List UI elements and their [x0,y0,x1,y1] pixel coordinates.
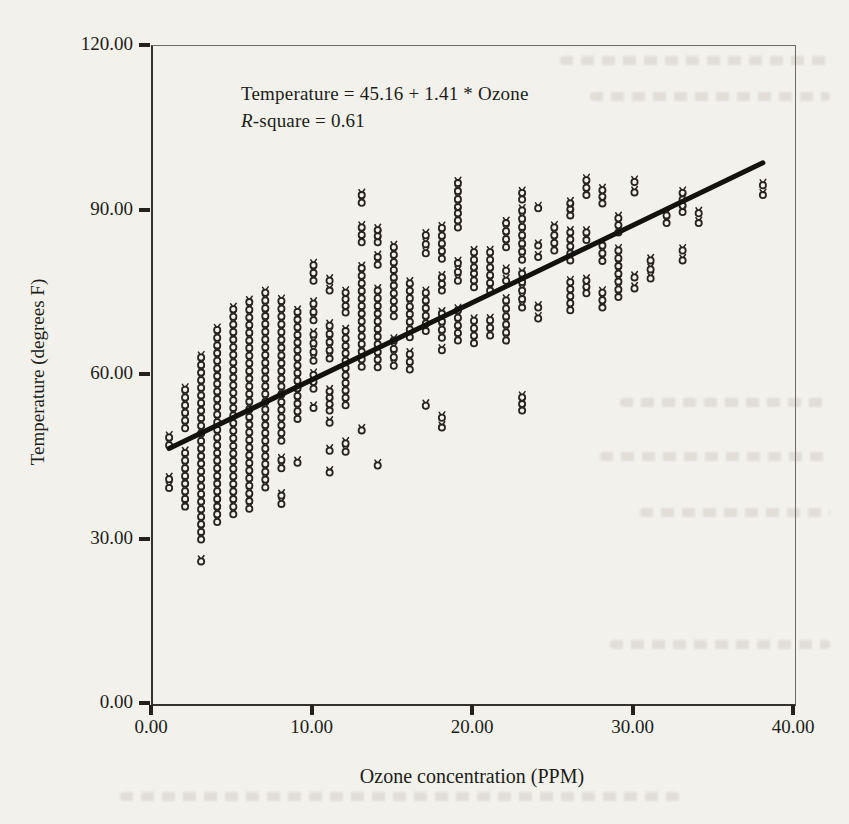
y-axis-tick [139,372,150,376]
x-axis-title: Ozone concentration (PPM) [360,765,584,788]
x-axis-tick-label: 0.00 [106,716,196,738]
x-axis-tick-label: 30.00 [588,716,678,738]
x-axis-tick [631,705,635,715]
x-axis-tick-label: 40.00 [748,716,838,738]
y-axis-tick-label: 120.00 [63,33,133,55]
page-bleedthrough [120,792,680,801]
y-axis-tick [139,43,150,47]
y-axis-tick [139,537,150,541]
plot-area: Temperature = 45.16 + 1.41 * Ozone R-squ… [151,45,796,706]
y-axis-title: Temperature (degrees F) [27,279,49,465]
y-axis-tick [139,208,150,212]
scanned-page: Temperature = 45.16 + 1.41 * Ozone R-squ… [0,0,849,824]
y-axis-tick-label: 90.00 [63,198,133,220]
y-axis-tick-label: 30.00 [63,527,133,549]
x-axis-tick-label: 10.00 [267,716,357,738]
scatter-points [166,174,766,564]
y-axis-tick-label: 60.00 [63,362,133,384]
x-axis-tick [310,705,314,715]
x-axis-tick [791,705,795,715]
regression-annotation: Temperature = 45.16 + 1.41 * Ozone R-squ… [241,80,529,134]
x-axis-tick [470,705,474,715]
scatter-plot-canvas [153,46,795,704]
x-axis-tick-label: 20.00 [427,716,517,738]
regression-equation: Temperature = 45.16 + 1.41 * Ozone [241,80,529,107]
regression-line [169,163,763,449]
x-axis-tick [149,705,153,715]
y-axis-tick-label: 0.00 [63,691,133,713]
r-square-text: R-square = 0.61 [241,107,529,134]
